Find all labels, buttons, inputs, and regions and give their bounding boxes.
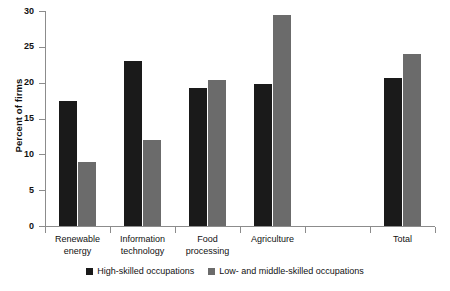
y-tick-label: 30 <box>10 7 34 16</box>
y-tick-label: 20 <box>10 78 34 87</box>
bar-group <box>189 11 226 226</box>
bar-group <box>124 11 161 226</box>
x-tick-mark <box>305 227 306 233</box>
x-tick-mark <box>175 227 176 233</box>
bar <box>124 61 142 226</box>
x-tick-mark <box>435 227 436 233</box>
x-category-label: Total <box>370 234 435 246</box>
x-category-label: Foodprocessing <box>175 234 240 257</box>
bar <box>189 88 207 226</box>
y-tick-label: 10 <box>10 150 34 159</box>
y-tick-label: 5 <box>10 186 34 195</box>
legend-item: Low- and middle-skilled occupations <box>208 266 364 276</box>
bar-group <box>384 11 421 226</box>
x-category-label: Informationtechnology <box>110 234 175 257</box>
x-tick-mark <box>45 227 46 233</box>
bar <box>78 162 96 227</box>
bar <box>143 140 161 226</box>
bar <box>208 80 226 226</box>
legend-label: Low- and middle-skilled occupations <box>219 266 364 276</box>
bar <box>384 78 402 226</box>
legend-label: High-skilled occupations <box>97 266 194 276</box>
bar <box>59 101 77 226</box>
x-category-label: Agriculture <box>240 234 305 246</box>
bar-group <box>59 11 96 226</box>
bar <box>273 15 291 226</box>
legend-item: High-skilled occupations <box>86 266 194 276</box>
x-tick-mark <box>110 227 111 233</box>
x-tick-mark <box>240 227 241 233</box>
bar-chart: Percent of firms 051015202530 Renewablee… <box>0 0 450 291</box>
bar <box>254 84 272 226</box>
y-tick-label: 15 <box>10 114 34 123</box>
bar <box>403 54 421 226</box>
gray-square-icon <box>208 268 215 275</box>
y-tick-label: 25 <box>10 42 34 51</box>
dark-square-icon <box>86 268 93 275</box>
bar-group <box>254 11 291 226</box>
x-category-label: Renewableenergy <box>45 234 110 257</box>
plot-area <box>45 11 435 226</box>
chart-legend: High-skilled occupationsLow- and middle-… <box>0 266 450 276</box>
x-tick-mark <box>370 227 371 233</box>
y-tick-label: 0 <box>10 222 34 231</box>
bar-group <box>319 11 356 226</box>
